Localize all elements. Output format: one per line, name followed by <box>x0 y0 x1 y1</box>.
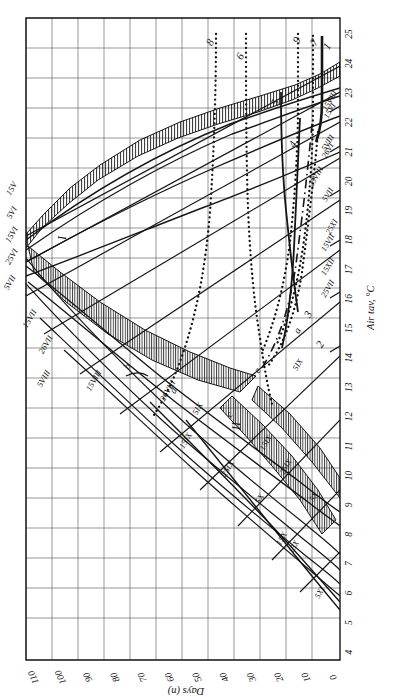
x-tick-14: 14 <box>344 353 354 363</box>
y-tick-20: 20 <box>272 671 285 684</box>
y-tick-30: 30 <box>245 671 259 685</box>
curve-number-6: 6 <box>233 50 246 61</box>
x-tick-23: 23 <box>344 88 354 98</box>
date-label-left-3: 25VI <box>3 246 21 266</box>
date-label-right-8: 5IX <box>291 357 305 373</box>
curve-6 <box>246 34 272 404</box>
curve-number-7: 7 <box>307 36 320 47</box>
curve-number-8: 8 <box>203 36 216 47</box>
region-label-I: I <box>55 235 69 241</box>
y-tick-110: 110 <box>26 669 41 686</box>
y-axis-title: Days (n) <box>167 685 205 697</box>
x-tick-20: 20 <box>344 176 354 186</box>
date-label-left-13: 5X <box>253 491 267 505</box>
y-tick-80: 80 <box>108 671 121 684</box>
curve-number-9: 9 <box>290 34 303 45</box>
envelope-arcs <box>26 88 340 276</box>
marker-b-hook <box>126 373 148 376</box>
y-tick-50: 50 <box>190 671 203 684</box>
x-tick-17: 17 <box>344 263 354 274</box>
y-tick-60: 60 <box>163 671 176 684</box>
x-axis-title: Air tav, °C <box>365 284 376 331</box>
date-label-left-2: 15VI <box>3 224 21 244</box>
date-label-right-13: 25XI <box>324 217 340 236</box>
grid-lines <box>26 18 312 660</box>
x-tick-7: 7 <box>344 560 354 566</box>
x-tick-8: 8 <box>344 532 354 537</box>
point-label-e: e <box>251 365 263 375</box>
y-tick-70: 70 <box>136 671 149 684</box>
nomogram-plot: 45678910111213141516171819202122232425 0… <box>0 0 402 697</box>
x-tick-4: 4 <box>344 649 354 654</box>
y-tick-90: 90 <box>81 671 94 684</box>
hatched-wedge-region-one <box>28 246 256 392</box>
date-label-right-6: 15VIII <box>321 88 340 112</box>
date-label-left-4: 5VII <box>1 272 18 291</box>
date-label-right-14: 15XII <box>319 255 337 277</box>
x-tick-13: 13 <box>344 382 354 392</box>
x-tick-12: 12 <box>344 412 354 422</box>
chart-figure: 45678910111213141516171819202122232425 0… <box>0 0 402 697</box>
x-tick-22: 22 <box>344 117 354 127</box>
x-tick-25: 25 <box>344 29 354 39</box>
x-tick-5: 5 <box>344 620 354 625</box>
date-label-right-12: 15X <box>287 538 302 555</box>
x-tick-16: 16 <box>344 294 354 304</box>
y-tick-100: 100 <box>53 668 68 685</box>
y-tick-10: 10 <box>299 671 312 684</box>
date-label-left-10: 5IX <box>190 400 205 416</box>
x-tick-18: 18 <box>344 235 354 245</box>
date-label-right-15: 5XI <box>313 584 327 600</box>
x-tick-9: 9 <box>344 502 354 507</box>
point-label-a: a <box>291 325 303 335</box>
x-tick-24: 24 <box>344 58 354 68</box>
date-label-left-11: 15IX <box>177 430 194 450</box>
date-label-left-0: 15V <box>4 178 20 197</box>
x-tick-19: 19 <box>344 206 354 216</box>
region-label-II: II <box>229 421 243 431</box>
x-tick-21: 21 <box>344 147 354 157</box>
y-tick-40: 40 <box>218 671 231 684</box>
x-tick-10: 10 <box>344 470 354 480</box>
y-tick-0: 0 <box>328 673 339 682</box>
date-label-left-1: 5VI <box>4 204 19 221</box>
x-tick-15: 15 <box>344 323 354 333</box>
x-tick-6: 6 <box>344 591 354 596</box>
x-tick-11: 11 <box>344 442 354 451</box>
plot-frame <box>26 18 340 660</box>
x-axis-tick-labels: 45678910111213141516171819202122232425 <box>344 29 354 654</box>
hatched-band-upper <box>26 62 340 248</box>
y-axis-tick-labels: 0102030405060708090100110 <box>26 668 339 685</box>
grid-lines-horizontal <box>26 18 340 660</box>
